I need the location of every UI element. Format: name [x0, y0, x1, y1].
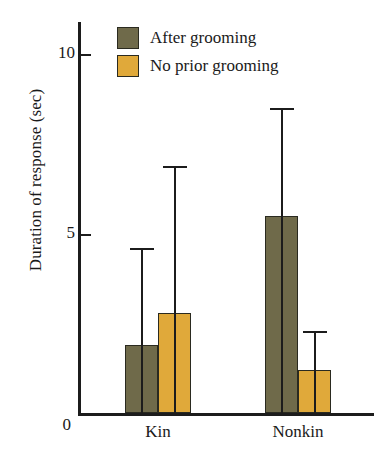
errorbar-stem — [314, 331, 316, 414]
y-axis-title: Duration of response (sec) — [26, 40, 46, 320]
legend-item-no-prior-grooming: No prior grooming — [117, 55, 278, 77]
legend-label: After grooming — [150, 28, 256, 48]
legend-label: No prior grooming — [150, 56, 278, 76]
errorbar-stem — [174, 166, 176, 414]
legend: After grooming No prior grooming — [117, 27, 278, 83]
y-tick-5: 5 — [81, 234, 91, 236]
errorbar-nonkin-after-grooming — [265, 108, 298, 413]
x-tick-label-nonkin: Nonkin — [258, 422, 338, 442]
legend-swatch-icon — [117, 55, 139, 77]
y-axis-spine — [78, 22, 81, 416]
errorbar-cap — [163, 166, 187, 168]
errorbar-stem — [141, 248, 143, 413]
errorbar-stem — [281, 108, 283, 413]
bar-chart-figure: Duration of response (sec) 10 5 0 — [0, 0, 379, 475]
legend-swatch-icon — [117, 27, 139, 49]
errorbar-kin-after-grooming — [125, 248, 158, 413]
y-tick-label-0: 0 — [31, 415, 71, 435]
errorbar-cap — [130, 248, 154, 250]
y-tick-label-10: 10 — [35, 43, 75, 63]
y-tick-label-5: 5 — [35, 223, 75, 243]
x-tick-label-kin: Kin — [118, 422, 198, 442]
errorbar-cap — [270, 108, 294, 110]
errorbar-cap — [303, 331, 327, 333]
errorbar-kin-no-prior-grooming — [158, 166, 191, 414]
errorbar-nonkin-no-prior-grooming — [298, 331, 331, 414]
x-axis-spine — [78, 413, 374, 416]
legend-item-after-grooming: After grooming — [117, 27, 278, 49]
y-tick-10: 10 — [81, 54, 91, 56]
